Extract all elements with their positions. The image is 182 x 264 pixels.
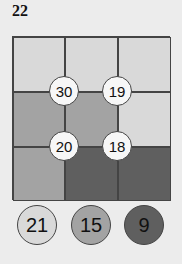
legend-circle-light: 21 bbox=[17, 205, 57, 245]
node-circle: 18 bbox=[102, 131, 132, 161]
node-circle: 30 bbox=[49, 76, 79, 106]
problem-number: 22 bbox=[12, 2, 28, 20]
legend-circle-medium: 15 bbox=[71, 205, 111, 245]
shaded-grid bbox=[12, 36, 170, 200]
node-circle: 20 bbox=[49, 131, 79, 161]
node-circle: 19 bbox=[102, 76, 132, 106]
legend-circle-dark: 9 bbox=[124, 205, 164, 245]
